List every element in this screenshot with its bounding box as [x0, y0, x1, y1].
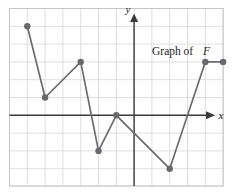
data-point-p8	[220, 59, 226, 65]
graph-figure: x y Graph of F	[0, 0, 235, 194]
data-point-p6	[167, 166, 173, 172]
graph-caption-text: Graph of	[152, 45, 193, 58]
data-point-p5	[113, 112, 119, 118]
data-point-p4	[95, 148, 101, 154]
graph-caption-symbol: F	[202, 45, 211, 57]
data-point-p7	[202, 59, 208, 65]
plot-background	[0, 0, 235, 194]
x-axis-label: x	[218, 109, 224, 121]
graph-of-f-plot: x y Graph of F	[0, 0, 235, 194]
data-point-p1	[24, 23, 30, 29]
data-point-p3	[78, 59, 84, 65]
y-axis-label: y	[125, 3, 131, 15]
data-point-p2	[42, 94, 48, 100]
